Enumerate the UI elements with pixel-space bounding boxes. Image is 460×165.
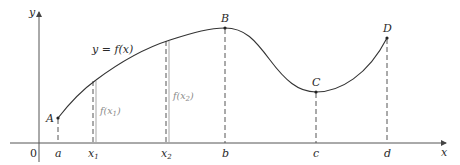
tick-x1: x1 (88, 147, 99, 161)
tick-b: b (222, 147, 229, 160)
label-point-b: B (220, 12, 229, 25)
tick-d: d (384, 147, 391, 160)
point-c (314, 90, 317, 93)
label-f-x1: f(x1) (99, 105, 121, 118)
tick-a: a (55, 147, 62, 160)
label-point-d: D (382, 22, 392, 35)
label-f-x2: f(x2) (172, 90, 194, 103)
x-axis-label: x (441, 146, 448, 159)
point-b (223, 26, 226, 29)
y-axis-label: y (28, 6, 36, 19)
point-a (56, 116, 59, 119)
origin-label: 0 (30, 147, 37, 160)
tick-c: c (313, 147, 319, 160)
label-point-c: C (312, 76, 321, 89)
tick-x2: x2 (161, 147, 172, 161)
point-d (385, 36, 388, 39)
label-point-a: A (45, 112, 54, 125)
function-label: y = f(x) (91, 43, 133, 56)
function-graph: A B C D y = f(x) y x 0 a x1 x2 b c d f(x… (0, 0, 460, 165)
